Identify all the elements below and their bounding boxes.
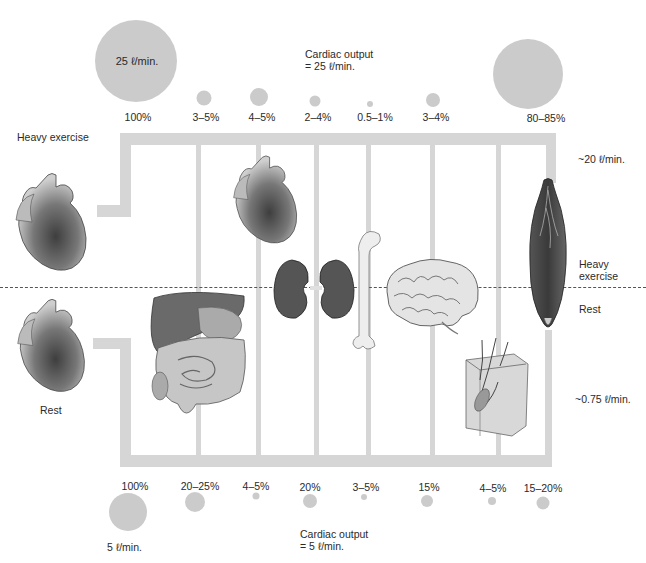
exercise-muscle-flow: ~20 ℓ/min.	[578, 153, 625, 165]
rest-pct-kidney: 20%	[299, 481, 320, 493]
bone-icon	[353, 230, 383, 350]
exercise-state-label: Heavy exercise	[17, 131, 89, 143]
rest-bone-circle	[361, 494, 367, 500]
rest-brain-circle	[421, 495, 433, 507]
rest-pct-muscle: 15–20%	[524, 482, 563, 494]
rest-pipe-inlet	[93, 338, 131, 349]
exercise-cardiac-output-label: Cardiac output	[305, 48, 373, 60]
exercise-kidney-circle	[310, 96, 321, 107]
rest-muscle-circle	[537, 497, 550, 510]
rest-heart-circle	[253, 493, 260, 500]
rest-cardiac-output-label: Cardiac output	[300, 528, 368, 540]
exercise-pct-gi: 3–5%	[193, 111, 220, 123]
exercise-pct-muscle: 80–85%	[527, 112, 566, 124]
divider-label-exercise-1: Heavy	[579, 258, 609, 270]
exercise-pipe-inlet	[97, 205, 131, 217]
exercise-bone-circle	[367, 101, 373, 107]
digestive-tract-liver-icon	[148, 288, 248, 423]
exercise-muscle-circle	[493, 39, 563, 109]
exercise-cardiac-output-value: = 25 ℓ/min.	[305, 60, 355, 72]
divider-label-rest: Rest	[579, 303, 601, 315]
rest-total-circle	[109, 493, 147, 531]
rest-skin-circle	[488, 497, 496, 505]
heart-coronary-icon	[230, 150, 302, 250]
exercise-pct-bone: 0.5–1%	[357, 111, 393, 123]
divider-label-exercise-2: exercise	[579, 270, 618, 282]
exercise-brain-circle	[426, 93, 440, 107]
rest-muscle-flow: ~0.75 ℓ/min.	[575, 393, 631, 405]
rest-gi-circle	[185, 492, 205, 512]
exercise-pct-heart: 4–5%	[249, 111, 276, 123]
rest-pct-heart: 4–5%	[243, 480, 270, 492]
rest-pipe-left-drop	[120, 338, 131, 467]
rest-pct-gi: 20–25%	[181, 480, 220, 492]
exercise-pipe-main	[120, 133, 556, 145]
skeletal-muscle-icon	[528, 178, 568, 333]
rest-pct-skin: 4–5%	[480, 482, 507, 494]
rest-pct-brain: 15%	[418, 481, 439, 493]
rest-pct-bone: 3–5%	[353, 481, 380, 493]
rest-cardiac-output-value: = 5 ℓ/min.	[300, 540, 344, 552]
exercise-total-flow: 25 ℓ/min.	[116, 55, 159, 68]
heart-exercise-icon	[12, 170, 92, 275]
exercise-pipe-right-drop	[546, 133, 556, 183]
exercise-heart-circle	[250, 88, 268, 106]
kidneys-icon	[270, 258, 360, 320]
rest-kidney-circle	[303, 494, 317, 508]
rest-state-label: Rest	[40, 404, 62, 416]
exercise-pct-kidney: 2–4%	[305, 111, 332, 123]
rest-pipe-main	[120, 455, 552, 467]
rest-pipe-right-rise	[545, 330, 552, 467]
skin-icon	[460, 340, 532, 440]
exercise-pct-total: 100%	[125, 111, 152, 123]
heart-rest-icon	[12, 296, 92, 396]
rest-pct-total: 100%	[122, 480, 149, 492]
rest-total-flow: 5 ℓ/min.	[107, 541, 142, 553]
brain-icon	[380, 258, 480, 338]
exercise-pct-brain: 3–4%	[423, 111, 450, 123]
exercise-gi-circle	[197, 91, 212, 106]
